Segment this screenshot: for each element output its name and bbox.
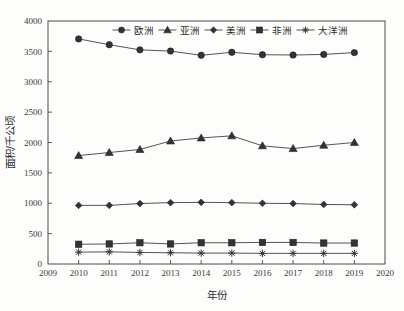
x-tick-label: 2015	[223, 268, 242, 278]
x-tick-label: 2018	[315, 268, 334, 278]
y-axis-title: 面积/千公顷	[4, 115, 16, 169]
data-point-diamond	[106, 202, 113, 209]
data-point-circle	[351, 49, 357, 55]
data-point-asterisk	[198, 249, 205, 256]
data-point-square	[198, 240, 204, 246]
series-2	[75, 199, 357, 209]
data-point-asterisk	[259, 250, 266, 257]
data-point-square	[259, 239, 265, 245]
x-tick-label: 2017	[284, 268, 303, 278]
data-point-asterisk	[351, 250, 358, 257]
legend-item-0[interactable]: 欧洲	[113, 25, 154, 36]
data-point-diamond	[259, 200, 266, 207]
legend-label: 大洋洲	[318, 25, 348, 36]
legend-label: 亚洲	[180, 25, 200, 36]
series-line	[79, 252, 355, 254]
legend-label: 欧洲	[134, 25, 154, 36]
data-point-triangle	[228, 132, 236, 139]
chart-legend: 欧洲亚洲美洲非洲大洋洲	[113, 25, 348, 36]
series-line	[79, 39, 355, 55]
data-point-diamond	[228, 199, 235, 206]
data-point-square	[290, 239, 296, 245]
data-point-circle	[75, 36, 81, 42]
data-point-square	[106, 241, 112, 247]
series-3	[75, 239, 357, 247]
data-series-group	[75, 36, 359, 257]
y-axis-tick-labels: 05001000150020002500300035004000	[24, 16, 43, 269]
data-point-asterisk	[228, 249, 235, 256]
legend-label: 非洲	[272, 25, 292, 36]
series-4	[75, 248, 358, 257]
data-point-asterisk	[320, 250, 327, 257]
data-point-circle	[137, 47, 143, 53]
data-point-diamond	[290, 200, 297, 207]
data-point-triangle	[350, 139, 358, 146]
legend-item-2[interactable]: 美洲	[205, 25, 246, 36]
x-tick-label: 2012	[131, 268, 149, 278]
y-tick-label: 3500	[24, 47, 43, 57]
data-point-asterisk	[106, 248, 113, 255]
data-point-circle	[259, 52, 265, 58]
y-tick-label: 3000	[24, 77, 43, 87]
data-point-diamond	[351, 201, 358, 208]
legend-item-4[interactable]: 大洋洲	[297, 25, 348, 36]
data-point-asterisk	[302, 27, 309, 34]
x-axis-title: 年份	[207, 289, 228, 301]
data-point-diamond	[320, 201, 327, 208]
series-0	[75, 36, 357, 59]
x-tick-label: 2020	[376, 268, 395, 278]
data-point-asterisk	[136, 249, 143, 256]
y-tick-label: 2500	[24, 107, 43, 117]
data-point-asterisk	[75, 248, 82, 255]
x-axis-tick-labels: 2009201020112012201320142015201620172018…	[39, 268, 395, 278]
legend-item-1[interactable]: 亚洲	[159, 25, 200, 36]
series-line	[79, 136, 355, 156]
legend-label: 美洲	[226, 25, 246, 36]
data-point-square	[351, 240, 357, 246]
y-tick-label: 4000	[24, 16, 43, 26]
series-line	[79, 242, 355, 244]
data-point-square	[137, 240, 143, 246]
legend-item-3[interactable]: 非洲	[251, 25, 292, 36]
x-tick-label: 2010	[70, 268, 89, 278]
axis-tick-marks	[48, 51, 354, 264]
data-point-circle	[229, 49, 235, 55]
x-tick-label: 2011	[100, 268, 118, 278]
y-tick-label: 2000	[24, 138, 43, 148]
data-point-circle	[119, 27, 125, 33]
x-tick-label: 2009	[39, 268, 58, 278]
data-point-square	[257, 27, 263, 33]
data-point-circle	[290, 52, 296, 58]
x-tick-label: 2014	[192, 268, 211, 278]
x-tick-label: 2019	[345, 268, 364, 278]
plot-frame	[48, 21, 385, 264]
data-point-asterisk	[289, 250, 296, 257]
data-point-diamond	[167, 199, 174, 206]
y-tick-label: 1000	[24, 198, 43, 208]
data-point-asterisk	[167, 249, 174, 256]
data-point-diamond	[198, 199, 205, 206]
data-point-circle	[106, 41, 112, 47]
data-point-diamond	[137, 200, 144, 207]
data-point-circle	[167, 48, 173, 54]
data-point-square	[75, 241, 81, 247]
series-1	[75, 132, 359, 159]
x-tick-label: 2013	[162, 268, 181, 278]
data-point-diamond	[75, 202, 82, 209]
data-point-diamond	[210, 27, 216, 33]
chart-canvas: 05001000150020002500300035004000 2009201…	[0, 0, 404, 311]
data-point-square	[167, 241, 173, 247]
x-tick-label: 2016	[253, 268, 272, 278]
data-point-circle	[198, 52, 204, 58]
line-chart: 05001000150020002500300035004000 2009201…	[0, 0, 404, 311]
data-point-circle	[321, 51, 327, 57]
y-tick-label: 500	[29, 229, 43, 239]
y-tick-label: 1500	[24, 168, 43, 178]
data-point-square	[229, 240, 235, 246]
data-point-square	[321, 240, 327, 246]
series-line	[79, 202, 355, 205]
